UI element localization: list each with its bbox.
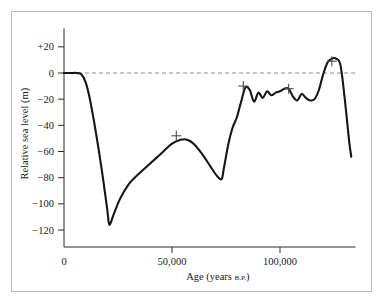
plus-marker-2 xyxy=(238,81,248,91)
sea-level-curve xyxy=(64,58,351,225)
plus-marker-3 xyxy=(284,84,294,94)
x-axis-title-main: Age (years xyxy=(186,271,234,283)
x-axis-title-sub: B.P. xyxy=(235,274,247,282)
figure-frame: +200−20−40−60−80−100−120050,000100,000Ag… xyxy=(11,11,372,292)
y-tick-label-5: −80 xyxy=(38,172,54,183)
x-axis-title: Age (years B.P.) xyxy=(186,271,250,283)
x-tick-label-1: 50,000 xyxy=(158,256,187,267)
figure-root: +200−20−40−60−80−100−120050,000100,000Ag… xyxy=(0,0,384,306)
y-tick-label-7: −120 xyxy=(32,225,54,236)
y-tick-label-4: −60 xyxy=(38,146,54,157)
sea-level-chart: +200−20−40−60−80−100−120050,000100,000Ag… xyxy=(12,12,371,291)
y-tick-label-1: 0 xyxy=(49,68,54,79)
y-tick-label-6: −100 xyxy=(32,198,54,209)
x-tick-label-2: 100,000 xyxy=(263,256,297,267)
y-tick-label-0: +20 xyxy=(38,41,54,52)
y-tick-label-2: −20 xyxy=(38,94,54,105)
y-tick-label-3: −40 xyxy=(38,120,54,131)
x-tick-label-0: 0 xyxy=(61,256,66,267)
x-axis-title-close: ) xyxy=(246,271,250,283)
y-axis-title: Relative sea level (m) xyxy=(19,87,31,179)
